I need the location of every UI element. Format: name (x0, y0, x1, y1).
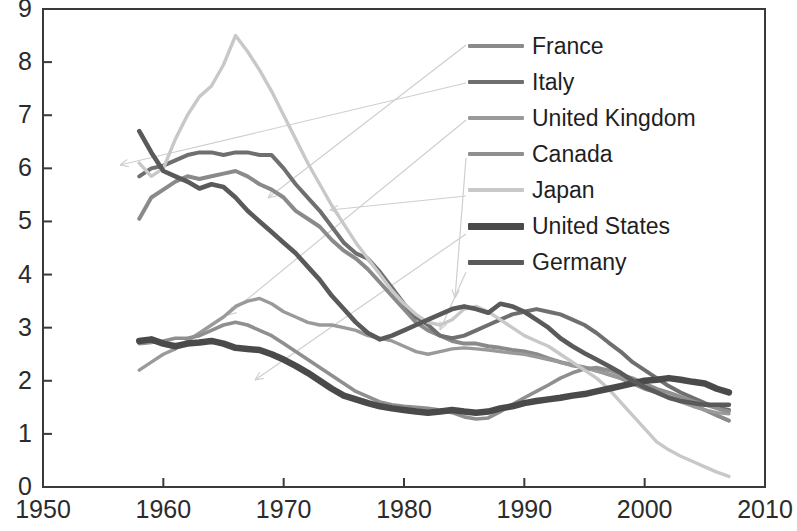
y-axis-tick-label: 8 (2, 49, 32, 74)
chart-legend: FranceItalyUnited KingdomCanadaJapanUnit… (468, 28, 768, 280)
y-axis-tick-label: 6 (2, 155, 32, 180)
x-axis-tick-label: 2010 (715, 497, 797, 522)
y-axis-tick-label: 1 (2, 421, 32, 446)
y-axis-tick-label: 7 (2, 102, 32, 127)
x-axis-tick-label: 1990 (474, 497, 574, 522)
legend-swatch-icon (468, 260, 524, 265)
legend-swatch-icon (468, 44, 524, 48)
legend-item-united-kingdom[interactable]: United Kingdom (468, 100, 768, 136)
germany-leader (440, 272, 466, 330)
series-line-canada (139, 322, 729, 419)
y-axis-tick-label: 9 (2, 0, 32, 21)
legend-item-germany[interactable]: Germany (468, 244, 768, 280)
legend-item-label: Germany (532, 251, 627, 274)
legend-swatch-icon (468, 188, 524, 192)
legend-swatch-icon (468, 223, 524, 230)
legend-item-canada[interactable]: Canada (468, 136, 768, 172)
japan-leader (330, 196, 466, 213)
legend-swatch-icon (468, 116, 524, 120)
legend-item-italy[interactable]: Italy (468, 64, 768, 100)
x-axis-tick-label: 2000 (595, 497, 695, 522)
x-axis-tick-label: 1970 (234, 497, 334, 522)
legend-item-label: Japan (532, 179, 595, 202)
italy-leader (120, 83, 466, 167)
legend-item-label: Italy (532, 71, 574, 94)
legend-item-france[interactable]: France (468, 28, 768, 64)
legend-swatch-icon (468, 152, 524, 156)
united-kingdom-leader (228, 120, 466, 315)
x-axis-tick-label: 1980 (354, 497, 454, 522)
y-axis-tick-label: 5 (2, 208, 32, 233)
legend-item-label: France (532, 35, 604, 58)
legend-item-united-states[interactable]: United States (468, 208, 768, 244)
x-axis-tick-label: 1960 (113, 497, 213, 522)
x-axis-tick-label: 1950 (0, 497, 93, 522)
y-axis-tick-label: 3 (2, 315, 32, 340)
y-axis-tick-label: 2 (2, 368, 32, 393)
y-axis-tick-label: 4 (2, 262, 32, 287)
legend-item-label: United States (532, 215, 670, 238)
legend-item-label: United Kingdom (532, 107, 696, 130)
legend-swatch-icon (468, 80, 524, 84)
legend-item-japan[interactable]: Japan (468, 172, 768, 208)
legend-item-label: Canada (532, 143, 613, 166)
series-line-united-states (139, 339, 729, 412)
france-leader (268, 45, 466, 198)
